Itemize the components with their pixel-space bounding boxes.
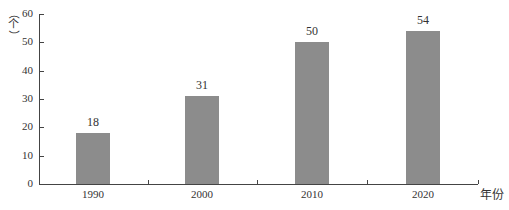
- bar-value-label: 18: [76, 115, 110, 130]
- bar-1990: [76, 133, 110, 184]
- y-tick-label: 30: [13, 92, 33, 104]
- y-tick-mark: [40, 14, 44, 15]
- y-tick-label: 40: [13, 64, 33, 76]
- bar-value-label: 50: [295, 24, 329, 39]
- y-tick-mark: [40, 156, 44, 157]
- y-tick-mark: [40, 42, 44, 43]
- y-tick-mark: [40, 71, 44, 72]
- x-tick-label: 1990: [73, 188, 113, 200]
- bar-value-label: 31: [185, 78, 219, 93]
- bar-value-label: 54: [406, 13, 440, 28]
- bar-chart: （ 个 ） 0102030405060 1990200020102020 183…: [0, 0, 509, 210]
- x-axis-line: [39, 184, 478, 185]
- bar-2000: [185, 96, 219, 184]
- y-tick-mark: [40, 99, 44, 100]
- x-axis-label: 年份: [480, 185, 504, 203]
- bar-2010: [295, 42, 329, 184]
- x-tick-label: 2000: [182, 188, 222, 200]
- x-tick-mark: [367, 180, 368, 184]
- y-tick-label: 20: [13, 120, 33, 132]
- y-tick-label: 60: [13, 7, 33, 19]
- x-tick-mark: [257, 180, 258, 184]
- y-tick-label: 0: [13, 177, 33, 189]
- y-tick-label: 10: [13, 149, 33, 161]
- x-tick-mark: [478, 180, 479, 184]
- y-tick-mark: [40, 127, 44, 128]
- x-tick-label: 2020: [403, 188, 443, 200]
- y-tick-label: 50: [13, 35, 33, 47]
- y-label-text: 个: [7, 19, 19, 30]
- x-tick-mark: [148, 180, 149, 184]
- y-tick-mark: [40, 184, 44, 185]
- bar-2020: [406, 31, 440, 184]
- x-tick-label: 2010: [292, 188, 332, 200]
